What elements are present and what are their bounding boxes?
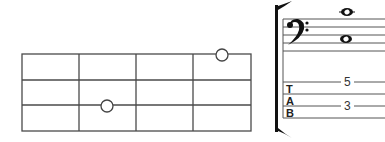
tab-label-a: A	[286, 95, 294, 107]
finger-marker-circle	[216, 49, 228, 61]
whole-note-icon	[340, 35, 352, 43]
bracket-bottom-serif	[275, 128, 292, 138]
whole-note-icon	[341, 8, 353, 16]
tab-label-b: B	[286, 107, 294, 119]
tablature-staff: T A B 5 3	[283, 75, 385, 119]
finger-marker-circle	[101, 100, 113, 112]
bass-clef-icon	[287, 19, 309, 45]
fretboard-diagram	[22, 49, 251, 131]
tab-fret-number: 5	[344, 75, 351, 89]
tab-fret-number: 3	[344, 99, 351, 113]
tab-label-t: T	[286, 83, 293, 95]
music-diagram: T A B 5 3	[0, 0, 385, 142]
bracket-bar	[275, 5, 278, 132]
bass-staff	[283, 8, 385, 51]
